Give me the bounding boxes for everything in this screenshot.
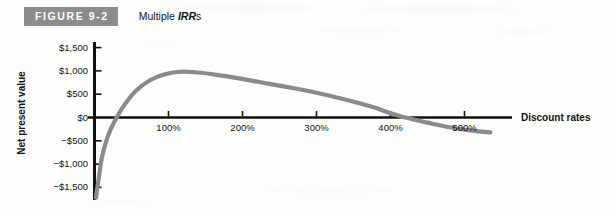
x-axis-title: Discount rates — [521, 112, 590, 123]
x-axis-tick-labels: 100%200%300%400%500% — [0, 0, 615, 217]
npv-chart: Net present value −$1,500−$1,000−$500$0$… — [0, 0, 615, 217]
x-tick-label: 200% — [221, 122, 265, 133]
x-tick-label: 500% — [443, 122, 487, 133]
x-tick-label: 400% — [369, 122, 413, 133]
x-tick-label: 100% — [147, 122, 191, 133]
x-tick-label: 300% — [295, 122, 339, 133]
